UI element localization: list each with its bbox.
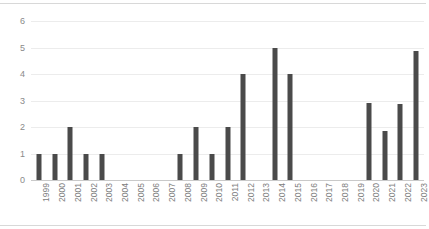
x-tick-label-2001: 2001 <box>74 183 83 202</box>
x-tick-label-2011: 2011 <box>231 183 240 201</box>
bar-2010 <box>209 154 214 181</box>
x-tick-label-2002: 2002 <box>90 183 99 202</box>
bar-2014 <box>272 48 277 181</box>
bar-series <box>31 21 424 180</box>
x-tick-label-2008: 2008 <box>184 183 193 202</box>
x-tick-label-2023: 2023 <box>420 183 429 202</box>
x-tick-label-1999: 1999 <box>42 183 51 202</box>
plot-area: 0123456 <box>31 21 424 180</box>
x-tick-label-2016: 2016 <box>310 183 319 202</box>
bar-2008 <box>178 154 183 181</box>
y-tick-label-5: 5 <box>20 43 25 52</box>
bar-2012 <box>241 74 246 180</box>
gridline-0: 0 <box>31 180 424 181</box>
x-tick-label-2000: 2000 <box>58 183 67 202</box>
x-tick-label-2009: 2009 <box>200 183 209 202</box>
y-tick-label-6: 6 <box>20 17 25 26</box>
bar-2023 <box>414 51 419 180</box>
x-tick-label-2021: 2021 <box>388 183 397 202</box>
x-tick-label-2018: 2018 <box>341 183 350 202</box>
x-tick-label-2020: 2020 <box>372 183 381 202</box>
bar-2009 <box>194 127 199 180</box>
bar-2021 <box>382 131 387 180</box>
figure-top-border <box>0 3 426 4</box>
x-tick-label-2012: 2012 <box>247 183 256 202</box>
bar-2002 <box>84 154 89 181</box>
x-tick-label-2007: 2007 <box>168 183 177 202</box>
x-tick-label-2017: 2017 <box>325 183 334 202</box>
bar-1999 <box>36 154 41 181</box>
bar-2020 <box>366 103 371 180</box>
x-tick-label-2015: 2015 <box>294 183 303 202</box>
bar-2011 <box>225 127 230 180</box>
x-tick-label-2003: 2003 <box>105 183 114 202</box>
y-tick-label-1: 1 <box>20 149 25 158</box>
x-axis-tick-labels: 1999200020012002200320042005200620072008… <box>31 183 424 227</box>
bar-2000 <box>52 154 57 181</box>
x-tick-label-2006: 2006 <box>152 183 161 202</box>
y-tick-label-3: 3 <box>20 96 25 105</box>
x-tick-label-2013: 2013 <box>262 183 271 202</box>
y-tick-label-0: 0 <box>20 176 25 185</box>
x-tick-label-2022: 2022 <box>404 183 413 202</box>
x-tick-label-2010: 2010 <box>215 183 224 202</box>
bar-2022 <box>398 104 403 180</box>
bar-2015 <box>288 74 293 180</box>
y-tick-label-4: 4 <box>20 70 25 79</box>
bar-2003 <box>99 154 104 181</box>
x-tick-label-2004: 2004 <box>121 183 130 202</box>
x-tick-label-2019: 2019 <box>357 183 366 202</box>
y-tick-label-2: 2 <box>20 123 25 132</box>
bar-2001 <box>68 127 73 180</box>
x-tick-label-2005: 2005 <box>137 183 146 202</box>
x-tick-label-2014: 2014 <box>278 183 287 202</box>
